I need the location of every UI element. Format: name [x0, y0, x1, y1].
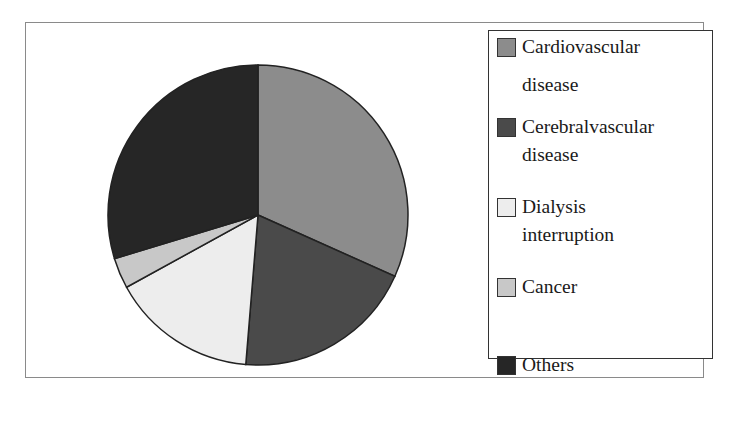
- legend-label: Cardiovascular disease: [522, 33, 640, 99]
- legend-item-cerebralvascular: Cerebralvascular disease: [497, 113, 654, 169]
- legend-item-cardiovascular: Cardiovascular disease: [497, 33, 640, 99]
- legend-label: Dialysis interruption: [522, 193, 614, 249]
- legend-item-cancer: Cancer: [497, 273, 577, 301]
- legend-item-others: Others: [497, 351, 574, 379]
- legend-swatch: [497, 118, 516, 137]
- legend: Cardiovascular disease Cerebralvascular …: [488, 30, 713, 359]
- pie-slices: [108, 65, 408, 365]
- legend-swatch: [497, 198, 516, 217]
- legend-label: Cancer: [522, 273, 577, 301]
- legend-swatch: [497, 356, 516, 375]
- legend-label: Others: [522, 351, 574, 379]
- legend-label: Cerebralvascular disease: [522, 113, 654, 169]
- legend-swatch: [497, 38, 516, 57]
- legend-swatch: [497, 278, 516, 297]
- legend-item-dialysis: Dialysis interruption: [497, 193, 614, 249]
